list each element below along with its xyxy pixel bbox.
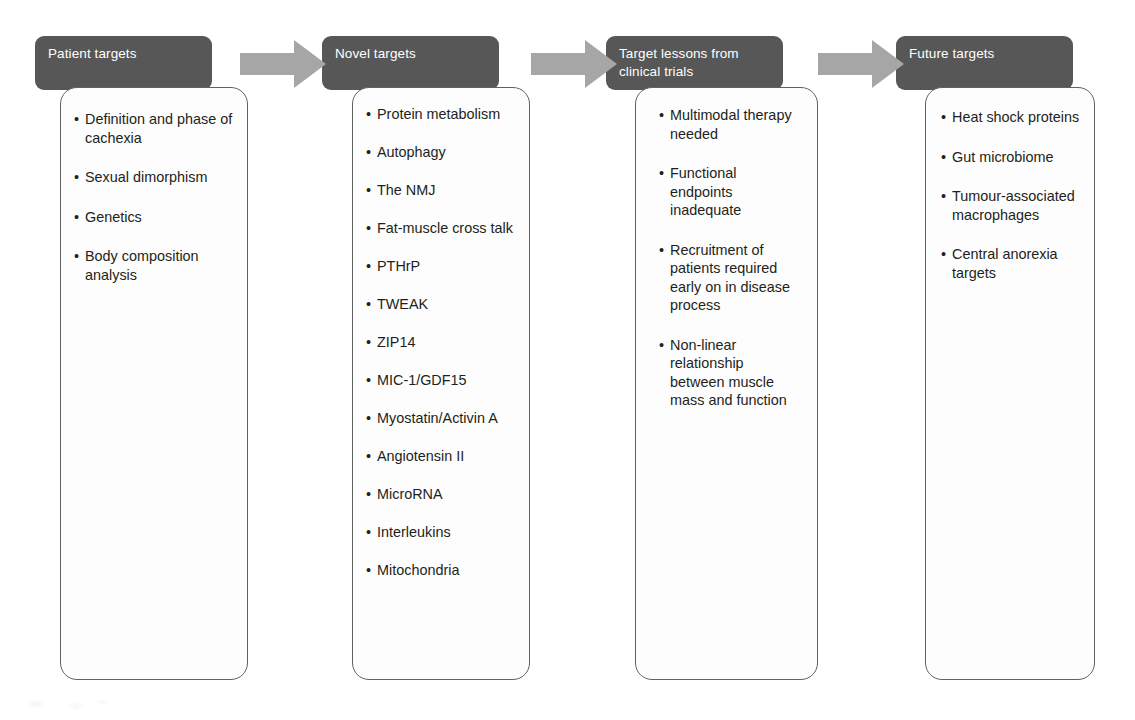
bullet-icon: • [659, 336, 664, 355]
list-item-label: Definition and phase of cachexia [85, 111, 232, 146]
column-header-label: Target lessons from clinical trials [619, 46, 739, 79]
list-item-label: PTHrP [377, 258, 420, 274]
list-item: • Functional endpoints inadequate [658, 164, 799, 220]
bullet-icon: • [941, 187, 946, 206]
column-header-label: Novel targets [335, 46, 416, 61]
list-item-label: Angiotensin II [377, 448, 464, 464]
flow-arrow-right-icon [818, 40, 904, 88]
bullet-icon: • [941, 148, 946, 167]
list-item-label: Functional endpoints inadequate [670, 165, 741, 218]
list-item-label: Multimodal therapy needed [670, 107, 792, 142]
list-item-label: Central anorexia targets [952, 246, 1058, 281]
list-item-label: Genetics [85, 209, 142, 225]
bullet-icon: • [659, 106, 664, 125]
list-item: • Genetics [73, 208, 233, 227]
list-item-label: MicroRNA [377, 486, 443, 502]
list-item-label: MIC-1/GDF15 [377, 372, 467, 388]
bullet-icon: • [366, 143, 371, 162]
list-item-label: ZIP14 [377, 334, 415, 350]
column-header-label: Patient targets [48, 46, 137, 61]
process-flow-diagram: Patient targets • Definition and phase o… [0, 0, 1135, 720]
bullet-icon: • [366, 219, 371, 238]
list-item: • Interleukins [365, 523, 519, 542]
list-item-label: Sexual dimorphism [85, 169, 207, 185]
bullet-icon: • [366, 181, 371, 200]
bullet-icon: • [366, 523, 371, 542]
list-item: • Heat shock proteins [940, 108, 1086, 127]
column-header-target-lessons: Target lessons from clinical trials [606, 36, 783, 90]
list-item: • ZIP14 [365, 333, 519, 352]
list-item: • Gut microbiome [940, 148, 1086, 167]
bullet-icon: • [366, 105, 371, 124]
list-item: • Autophagy [365, 143, 519, 162]
list-item: • PTHrP [365, 257, 519, 276]
list-item-label: Body composition analysis [85, 248, 199, 283]
bullet-list-novel-targets: • Protein metabolism • Autophagy • The N… [353, 105, 529, 580]
column-header-patient-targets: Patient targets [35, 36, 212, 90]
list-item: • Tumour-associated macrophages [940, 187, 1086, 224]
bullet-icon: • [941, 108, 946, 127]
flow-arrow-right-icon [240, 40, 326, 88]
list-item: • Recruitment of patients required early… [658, 241, 799, 315]
column-body-patient-targets: • Definition and phase of cachexia • Sex… [60, 87, 248, 680]
list-item: • Sexual dimorphism [73, 168, 233, 187]
list-item: • Multimodal therapy needed [658, 106, 799, 143]
bullet-list-patient-targets: • Definition and phase of cachexia • Sex… [61, 110, 247, 284]
list-item: • Mitochondria [365, 561, 519, 580]
bullet-icon: • [74, 208, 79, 227]
bullet-icon: • [74, 110, 79, 129]
bullet-icon: • [366, 371, 371, 390]
bullet-icon: • [366, 447, 371, 466]
column-header-novel-targets: Novel targets [322, 36, 499, 90]
scan-artifact [14, 694, 134, 716]
list-item: • Central anorexia targets [940, 245, 1086, 282]
list-item: • Angiotensin II [365, 447, 519, 466]
list-item: • MIC-1/GDF15 [365, 371, 519, 390]
list-item-label: The NMJ [377, 182, 435, 198]
column-body-novel-targets: • Protein metabolism • Autophagy • The N… [352, 87, 530, 680]
list-item-label: Mitochondria [377, 562, 459, 578]
bullet-icon: • [366, 561, 371, 580]
bullet-icon: • [74, 168, 79, 187]
bullet-icon: • [366, 295, 371, 314]
list-item-label: Recruitment of patients required early o… [670, 242, 790, 314]
list-item: • Fat-muscle cross talk [365, 219, 519, 238]
list-item-label: Heat shock proteins [952, 109, 1079, 125]
bullet-icon: • [366, 333, 371, 352]
list-item: • Myostatin/Activin A [365, 409, 519, 428]
list-item: • Protein metabolism [365, 105, 519, 124]
list-item-label: Interleukins [377, 524, 451, 540]
list-item-label: Gut microbiome [952, 149, 1054, 165]
bullet-icon: • [366, 257, 371, 276]
column-body-target-lessons: • Multimodal therapy needed • Functional… [635, 87, 818, 680]
flow-arrow-right-icon [531, 40, 617, 88]
bullet-icon: • [74, 247, 79, 266]
list-item-label: Autophagy [377, 144, 446, 160]
list-item: • The NMJ [365, 181, 519, 200]
bullet-icon: • [366, 485, 371, 504]
list-item-label: Tumour-associated macrophages [952, 188, 1075, 223]
column-header-future-targets: Future targets [896, 36, 1073, 90]
list-item-label: Fat-muscle cross talk [377, 220, 513, 236]
list-item-label: Protein metabolism [377, 106, 500, 122]
list-item: • Non-linear relationship between muscle… [658, 336, 799, 410]
list-item: • MicroRNA [365, 485, 519, 504]
bullet-icon: • [659, 164, 664, 183]
bullet-icon: • [659, 241, 664, 260]
bullet-list-target-lessons: • Multimodal therapy needed • Functional… [636, 106, 817, 410]
bullet-icon: • [941, 245, 946, 264]
column-header-label: Future targets [909, 46, 994, 61]
list-item-label: Myostatin/Activin A [377, 410, 498, 426]
list-item: • Body composition analysis [73, 247, 233, 284]
list-item-label: TWEAK [377, 296, 428, 312]
list-item: • TWEAK [365, 295, 519, 314]
bullet-list-future-targets: • Heat shock proteins • Gut microbiome •… [926, 108, 1094, 282]
list-item-label: Non-linear relationship between muscle m… [670, 337, 787, 409]
column-body-future-targets: • Heat shock proteins • Gut microbiome •… [925, 87, 1095, 680]
bullet-icon: • [366, 409, 371, 428]
list-item: • Definition and phase of cachexia [73, 110, 233, 147]
